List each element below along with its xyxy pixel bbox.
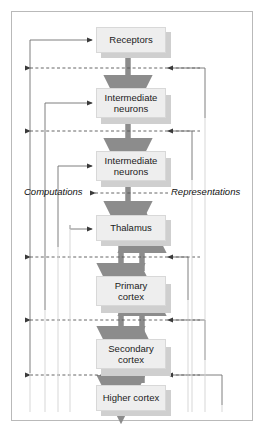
- node-intermediate-neurons-2[interactable]: Intermediateneurons: [96, 151, 166, 181]
- node-receptors[interactable]: Receptors: [96, 27, 166, 53]
- right-loop-lines: [168, 68, 222, 405]
- label-representations: Representations: [171, 186, 240, 197]
- node-label: Intermediateneurons: [105, 92, 158, 114]
- node-intermediate-neurons-1[interactable]: Intermediateneurons: [96, 88, 166, 118]
- node-label: Secondarycortex: [108, 343, 153, 365]
- node-secondary-cortex[interactable]: Secondarycortex: [96, 339, 166, 369]
- node-label: Higher cortex: [103, 392, 160, 403]
- node-primary-cortex[interactable]: Primarycortex: [96, 276, 166, 306]
- node-label: Receptors: [109, 34, 152, 45]
- figure-canvas: Receptors Intermediateneurons Intermedia…: [0, 0, 266, 434]
- left-loop-lines: [30, 40, 92, 373]
- node-higher-cortex[interactable]: Higher cortex: [96, 385, 166, 411]
- node-label: Thalamus: [110, 222, 152, 233]
- label-computations: Computations: [24, 186, 83, 197]
- node-label: Primarycortex: [115, 280, 148, 302]
- node-label: Intermediateneurons: [105, 155, 158, 177]
- node-thalamus[interactable]: Thalamus: [96, 215, 166, 241]
